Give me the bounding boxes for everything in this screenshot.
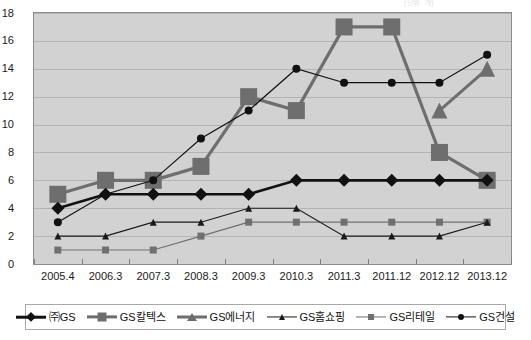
data-point-marker <box>194 188 207 201</box>
data-point-marker <box>49 186 66 203</box>
legend-key-icon <box>16 311 46 323</box>
legend-item-5[interactable]: GS건설 <box>446 311 515 323</box>
data-point-marker <box>338 174 351 187</box>
data-point-marker <box>288 102 305 119</box>
data-point-marker <box>192 158 209 175</box>
data-point-marker <box>240 88 257 105</box>
y-tick-label: 8 <box>0 147 14 158</box>
data-point-marker <box>383 18 400 35</box>
legend-key-icon <box>446 311 476 323</box>
data-point-marker <box>150 247 157 254</box>
data-point-marker <box>341 219 348 226</box>
x-tickmark <box>511 259 512 264</box>
data-point-marker <box>431 144 448 161</box>
data-point-marker <box>290 174 303 187</box>
unit-caption: (단위: 개) <box>404 0 434 7</box>
data-point-marker <box>197 135 205 143</box>
y-tick-label: 14 <box>0 63 14 74</box>
data-point-marker <box>147 188 160 201</box>
chart-figure: (단위: 개) 024681012141618 2005.42006.32007… <box>0 0 531 340</box>
plot-area <box>33 12 512 265</box>
data-point-marker <box>102 247 109 254</box>
data-point-marker <box>54 218 62 226</box>
y-tick-label: 16 <box>0 35 14 46</box>
legend-key-icon <box>356 311 386 323</box>
legend-label: GS에너지 <box>210 311 256 323</box>
data-point-marker <box>197 233 204 240</box>
legend-item-0[interactable]: ㈜GS <box>16 311 76 323</box>
data-point-marker <box>388 79 396 87</box>
series-line <box>439 69 487 111</box>
y-tick-label: 12 <box>0 91 14 102</box>
y-tick-label: 0 <box>0 259 14 270</box>
y-tick-label: 4 <box>0 203 14 214</box>
data-point-marker <box>388 219 395 226</box>
legend-item-1[interactable]: GS칼텍스 <box>87 311 166 323</box>
y-tick-label: 10 <box>0 119 14 130</box>
data-point-marker <box>293 219 300 226</box>
data-point-marker <box>97 172 114 189</box>
data-point-marker <box>245 219 252 226</box>
data-point-marker <box>245 107 253 115</box>
data-point-marker <box>385 174 398 187</box>
data-point-marker <box>54 247 61 254</box>
legend-label: GS리테일 <box>389 311 435 323</box>
data-point-marker <box>242 188 255 201</box>
chart-legend: ㈜GSGS칼텍스GS에너지GS홈쇼핑GS리테일GS건설 <box>25 304 506 330</box>
legend-key-icon <box>177 311 207 323</box>
legend-item-3[interactable]: GS홈쇼핑 <box>267 311 346 323</box>
data-point-marker <box>436 219 443 226</box>
y-tick-label: 2 <box>0 231 14 242</box>
data-point-marker <box>479 61 495 77</box>
data-point-marker <box>433 174 446 187</box>
legend-item-4[interactable]: GS리테일 <box>356 311 435 323</box>
legend-label: ㈜GS <box>49 311 76 323</box>
legend-key-icon <box>87 311 117 323</box>
x-tick-label: 2013.12 <box>457 270 517 282</box>
data-point-marker <box>336 18 353 35</box>
series-line <box>58 55 487 222</box>
y-tick-label: 18 <box>0 8 14 19</box>
legend-label: GS칼텍스 <box>120 311 166 323</box>
plot-inner <box>34 13 511 264</box>
series-line <box>58 180 487 208</box>
series-1 <box>49 18 495 202</box>
data-point-marker <box>340 79 348 87</box>
data-point-marker <box>51 202 64 215</box>
legend-label: GS건설 <box>479 311 515 323</box>
data-point-marker <box>292 65 300 73</box>
data-point-marker <box>102 190 110 198</box>
data-point-marker <box>149 176 157 184</box>
data-point-marker <box>435 79 443 87</box>
legend-item-2[interactable]: GS에너지 <box>177 311 256 323</box>
data-point-marker <box>483 51 491 59</box>
y-tick-label: 6 <box>0 175 14 186</box>
series-5 <box>54 51 491 226</box>
series-line <box>58 27 487 194</box>
series-layer <box>34 13 511 264</box>
legend-key-icon <box>267 311 297 323</box>
legend-label: GS홈쇼핑 <box>300 311 346 323</box>
